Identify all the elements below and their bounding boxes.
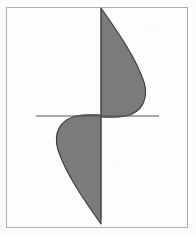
figure-plot [0,0,196,236]
scan-speck [46,196,47,197]
figure-screenshot [0,0,196,236]
scan-speck [151,26,153,28]
lower-lobe-shape [56,115,101,224]
upper-lobe-shape [101,8,146,117]
scan-speck [113,164,115,166]
